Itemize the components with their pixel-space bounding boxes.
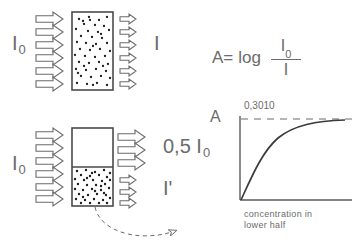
chart-curve <box>241 120 345 200</box>
transmitted-arrows-top <box>120 14 136 89</box>
chart-asymptote-label: 0,3010 <box>244 100 275 111</box>
label-transmitted-top: I <box>154 32 160 55</box>
cuvette-half <box>72 128 113 206</box>
incident-arrows-bottom <box>36 128 63 206</box>
formula-numerator: I0 <box>275 38 298 59</box>
cuvette-full <box>72 12 113 90</box>
formula-log: log <box>238 48 261 68</box>
absorbance-formula: A= log I0 I <box>212 38 301 78</box>
label-transmitted-lower-bottom: I' <box>163 177 172 200</box>
absorbance-chart <box>240 116 352 200</box>
incident-arrows-top <box>36 12 63 91</box>
chart-y-axis-label: A <box>210 108 221 126</box>
formula-lhs: A= <box>212 48 233 68</box>
label-incident-bottom: I0 <box>12 152 25 175</box>
callout-arrow <box>95 207 175 236</box>
bottom-panel <box>36 128 145 208</box>
chart-x-axis-caption-line2: lower half <box>244 220 286 231</box>
label-transmitted-upper-bottom: 0,5 I0 <box>163 135 209 158</box>
top-panel <box>36 12 136 91</box>
transmitted-arrows-bottom-lower <box>120 175 136 208</box>
label-incident-top: I0 <box>12 32 25 55</box>
chart-x-axis-caption-line1: concentration in <box>244 209 312 220</box>
formula-fraction: I0 I <box>271 38 301 78</box>
transmitted-arrows-bottom-upper <box>118 130 145 170</box>
formula-denominator: I <box>278 60 294 78</box>
